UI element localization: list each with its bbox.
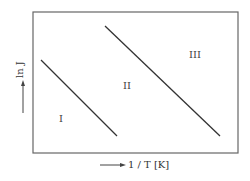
y-arrow-head-icon <box>21 80 25 86</box>
x-axis-label: 1 / T [K] <box>128 159 169 170</box>
region-label-3: III <box>189 49 201 60</box>
region-label-2: II <box>123 80 131 91</box>
boundary-line-1 <box>41 60 117 136</box>
region-label-1: I <box>59 113 63 124</box>
x-arrow-head-icon <box>120 163 126 167</box>
y-axis-label: ln J <box>14 61 25 78</box>
